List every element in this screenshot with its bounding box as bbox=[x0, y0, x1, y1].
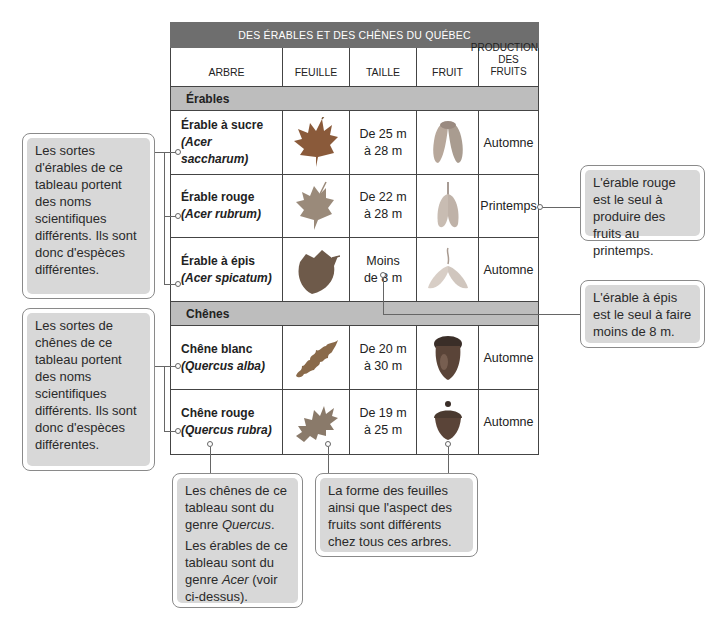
size-line2: à 28 m bbox=[364, 143, 402, 160]
callout-text: Les sortes d'érables de ce tableau porte… bbox=[27, 138, 150, 294]
size-cell: De 22 m à 28 m bbox=[350, 175, 417, 238]
callout-genus: Les chênes de ce tableau sont du genre Q… bbox=[172, 473, 303, 608]
tree-name: Érable à sucre bbox=[181, 117, 282, 134]
connector-dot bbox=[175, 213, 181, 219]
connector-line bbox=[154, 152, 176, 153]
scientific-name: (Acer spicatum) bbox=[181, 270, 272, 287]
callout-text: La forme des feuilles ainsi que l'aspect… bbox=[320, 478, 473, 552]
callout-text: L'érable rouge est le seul à produire de… bbox=[585, 170, 700, 236]
leaf-cell bbox=[283, 238, 350, 302]
size-line1: De 20 m bbox=[359, 341, 406, 358]
size-line2: à 25 m bbox=[364, 422, 402, 439]
connector-line bbox=[383, 278, 384, 314]
production-cell: Automne bbox=[479, 238, 539, 302]
production-cell: Automne bbox=[479, 111, 539, 175]
scientific-name: (Acer saccharum) bbox=[181, 134, 282, 168]
size-line2: à 30 m bbox=[364, 358, 402, 375]
scientific-name: (Quercus rubra) bbox=[181, 422, 272, 439]
connector-line bbox=[328, 447, 329, 474]
header-production: PRODUCTION DES FRUITS bbox=[479, 48, 539, 87]
maple-leaf-icon bbox=[292, 117, 340, 169]
oak-leaf-icon bbox=[292, 396, 340, 448]
tree-name-cell: Érable à sucre(Acer saccharum) bbox=[170, 111, 283, 175]
header-production-line2: DES FRUITS bbox=[479, 54, 538, 78]
group-row-erables: Érables bbox=[170, 87, 539, 111]
scientific-name: (Acer rubrum) bbox=[181, 206, 261, 223]
header-feuille: FEUILLE bbox=[283, 48, 350, 87]
maple-leaf-icon bbox=[292, 244, 340, 296]
genus-acer-text: Les érables de ce tableau sont du genre … bbox=[185, 537, 290, 605]
size-line1: De 22 m bbox=[359, 189, 406, 206]
connector-line bbox=[154, 366, 176, 367]
production-cell: Automne bbox=[479, 390, 539, 455]
leaf-cell bbox=[283, 390, 350, 455]
leaf-cell bbox=[283, 111, 350, 175]
samara-icon bbox=[424, 244, 472, 296]
scientific-name: (Quercus alba) bbox=[181, 358, 265, 375]
connector-line bbox=[448, 447, 449, 474]
size-line1: Moins bbox=[366, 253, 399, 270]
text: . bbox=[271, 517, 275, 532]
tree-name: Érable rouge bbox=[181, 189, 261, 206]
production-cell: Printemps bbox=[479, 175, 539, 238]
production-cell: Automne bbox=[479, 326, 539, 390]
callout-mountain-maple-size: L'érable à épis est le seul à faire moin… bbox=[580, 280, 705, 348]
callout-text: Les chênes de ce tableau sont du genre Q… bbox=[177, 478, 298, 603]
size-line1: De 19 m bbox=[359, 405, 406, 422]
header-production-line1: PRODUCTION bbox=[471, 42, 538, 54]
connector-dot bbox=[175, 281, 181, 287]
tree-name-cell: Chêne blanc(Quercus alba) bbox=[170, 326, 283, 390]
tree-name-cell: Érable à épis(Acer spicatum) bbox=[170, 238, 283, 302]
connector-dot bbox=[175, 428, 181, 434]
maple-leaf-icon bbox=[292, 180, 340, 232]
genus-name: Quercus bbox=[222, 517, 271, 532]
leaf-cell bbox=[283, 326, 350, 390]
connector-line bbox=[210, 447, 211, 474]
header-arbre: ARBRE bbox=[170, 48, 283, 87]
acorn-icon bbox=[424, 332, 472, 384]
connector-line bbox=[164, 366, 165, 431]
header-fruit: FRUIT bbox=[417, 48, 479, 87]
tree-name: Érable à épis bbox=[181, 253, 272, 270]
callout-text: Les sortes de chênes de ce tableau porte… bbox=[27, 313, 150, 466]
callout-text: L'érable à épis est le seul à faire moin… bbox=[585, 285, 700, 343]
fruit-cell bbox=[417, 111, 479, 175]
connector-dot bbox=[175, 363, 181, 369]
size-line2: à 28 m bbox=[364, 206, 402, 223]
genus-name: Acer bbox=[222, 572, 249, 587]
leaf-cell bbox=[283, 175, 350, 238]
fruit-cell bbox=[417, 238, 479, 302]
callout-maples-species: Les sortes d'érables de ce tableau porte… bbox=[22, 133, 155, 299]
samara-icon bbox=[424, 180, 472, 232]
connector-line bbox=[543, 207, 580, 208]
samara-icon bbox=[424, 117, 472, 169]
tree-name-cell: Chêne rouge(Quercus rubra) bbox=[170, 390, 283, 455]
connector-dot bbox=[175, 149, 181, 155]
tree-name: Chêne rouge bbox=[181, 405, 272, 422]
size-cell: De 25 m à 28 m bbox=[350, 111, 417, 175]
genus-quercus-text: Les chênes de ce tableau sont du genre Q… bbox=[185, 482, 290, 533]
fruit-cell bbox=[417, 175, 479, 238]
callout-leaves-fruits: La forme des feuilles ainsi que l'aspect… bbox=[315, 473, 478, 557]
header-taille: TAILLE bbox=[350, 48, 417, 87]
connector-line bbox=[164, 152, 165, 284]
connector-line bbox=[383, 314, 580, 315]
size-cell: De 20 m à 30 m bbox=[350, 326, 417, 390]
fruit-cell bbox=[417, 326, 479, 390]
callout-red-maple-spring: L'érable rouge est le seul à produire de… bbox=[580, 165, 705, 241]
callout-oaks-species: Les sortes de chênes de ce tableau porte… bbox=[22, 308, 155, 471]
tree-name: Chêne blanc bbox=[181, 341, 265, 358]
oak-leaf-icon bbox=[292, 332, 340, 384]
size-cell: De 19 m à 25 m bbox=[350, 390, 417, 455]
size-line1: De 25 m bbox=[359, 126, 406, 143]
tree-name-cell: Érable rouge(Acer rubrum) bbox=[170, 175, 283, 238]
